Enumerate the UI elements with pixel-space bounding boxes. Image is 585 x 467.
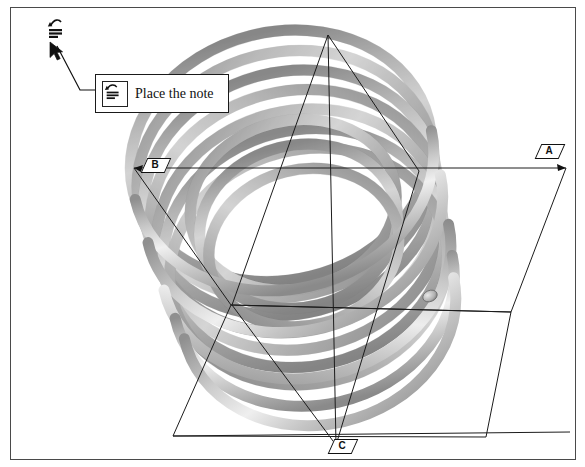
vertex-chip-b[interactable]: B xyxy=(144,158,168,173)
place-note-icon xyxy=(102,81,128,107)
annotation-cursor xyxy=(44,16,78,62)
vertex-chip-c[interactable]: C xyxy=(331,439,355,454)
scene-graphics xyxy=(0,0,585,467)
vertex-chip-a[interactable]: A xyxy=(538,144,562,159)
place-note-tooltip[interactable]: Place the note xyxy=(95,74,229,113)
place-note-tooltip-label: Place the note xyxy=(135,87,214,101)
vertex-chip-b-label: B xyxy=(144,158,166,171)
vertex-chip-c-label: C xyxy=(331,439,353,452)
cad-viewport[interactable]: B A C xyxy=(0,0,585,467)
note-icon xyxy=(48,20,62,38)
vertex-chip-a-label: A xyxy=(538,144,560,157)
pointer-arrow-icon xyxy=(50,42,63,60)
